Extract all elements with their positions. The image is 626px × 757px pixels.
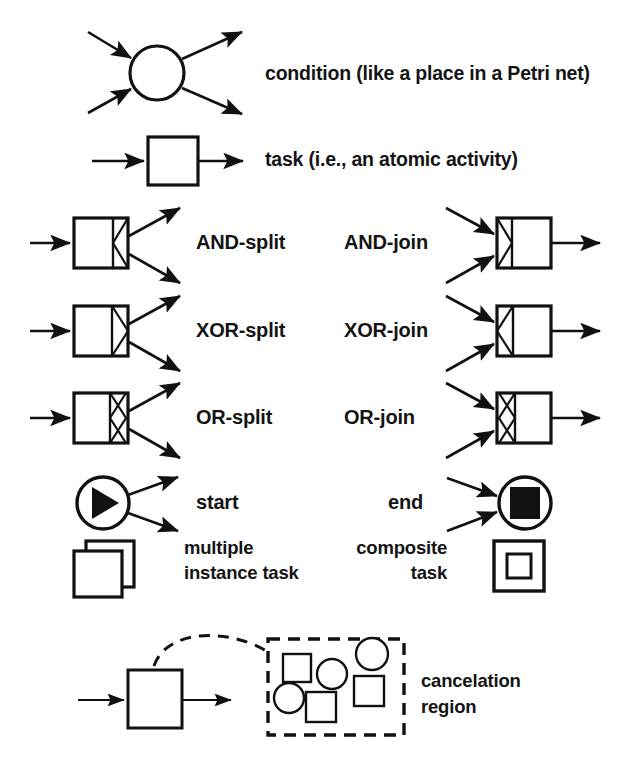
cancelation-region-circle-1 [317, 659, 347, 689]
cancelation-region-circle-2 [356, 638, 388, 670]
symbol-or-join [446, 383, 600, 458]
xor-join-in-arrow-top [446, 296, 494, 322]
symbol-and-split [30, 208, 180, 283]
symbol-cancelation-region [78, 636, 404, 735]
label-xor-join: XOR-join [344, 319, 428, 343]
label-end: end [388, 491, 423, 515]
symbol-condition [88, 32, 242, 114]
symbol-end [447, 477, 551, 531]
start-out-arrow-bottom [128, 513, 178, 531]
cancelation-region-square-1 [283, 654, 311, 682]
symbol-composite-task [494, 541, 544, 591]
composite-inner-square [507, 554, 531, 578]
task-box [148, 137, 198, 185]
condition-out-arrow-top [182, 32, 242, 59]
or-join-in-arrow-bottom [446, 431, 494, 458]
label-or-join: OR-join [344, 406, 415, 430]
and-join-box [497, 218, 551, 268]
label-xor-split: XOR-split [196, 319, 285, 343]
cancelation-region-square-3 [354, 676, 384, 706]
label-composite-task-line1: composite [320, 537, 447, 559]
and-split-out-arrow-top [129, 208, 180, 236]
multiple-instance-front-square [74, 551, 122, 597]
cancelation-dashed-arc [154, 636, 270, 666]
or-join-in-arrow-top [446, 383, 494, 409]
label-cancelation-region-line2: region [421, 696, 476, 718]
label-or-split: OR-split [196, 406, 272, 430]
condition-circle [130, 46, 184, 100]
symbol-xor-split [30, 296, 180, 371]
condition-in-arrow-bottom [88, 89, 131, 113]
label-condition: condition (like a place in a Petri net) [265, 62, 590, 85]
label-start: start [196, 491, 238, 515]
label-composite-task-line2: task [320, 562, 447, 584]
xor-split-box [74, 306, 128, 356]
symbol-start [77, 477, 178, 531]
symbol-or-split [30, 383, 180, 458]
or-split-out-arrow-top [129, 383, 180, 411]
xor-join-box [497, 306, 551, 356]
cancelation-region-square-2 [306, 692, 336, 722]
end-stop-square-icon [510, 487, 540, 519]
or-split-out-arrow-bottom [129, 429, 180, 458]
xor-join-in-arrow-bottom [446, 344, 494, 371]
and-split-out-arrow-bottom [129, 254, 180, 283]
symbol-task [92, 137, 243, 185]
and-split-box [74, 218, 128, 268]
symbol-xor-join [446, 296, 600, 371]
label-multiple-instance-task-line1: multiple [184, 537, 253, 559]
condition-in-arrow-top [88, 32, 131, 58]
start-out-arrow-top [128, 477, 178, 495]
and-join-in-arrow-bottom [446, 256, 494, 283]
xor-split-out-arrow-bottom [129, 342, 180, 371]
xor-split-out-arrow-top [129, 296, 180, 324]
symbol-multiple-instance-task [74, 541, 134, 597]
end-in-arrow-bottom [447, 512, 497, 531]
notation-legend-diagram [0, 0, 626, 757]
cancelation-region-circle-3 [274, 683, 304, 713]
label-multiple-instance-task-line2: instance task [184, 562, 299, 584]
cancelation-task-box [128, 670, 182, 728]
condition-out-arrow-bottom [182, 88, 242, 114]
symbol-and-join [446, 208, 600, 283]
label-and-join: AND-join [344, 231, 428, 255]
label-task: task (i.e., an atomic activity) [265, 148, 518, 171]
and-join-in-arrow-top [446, 208, 494, 234]
label-cancelation-region-line1: cancelation [421, 670, 521, 692]
label-and-split: AND-split [196, 231, 285, 255]
end-in-arrow-top [447, 478, 497, 496]
